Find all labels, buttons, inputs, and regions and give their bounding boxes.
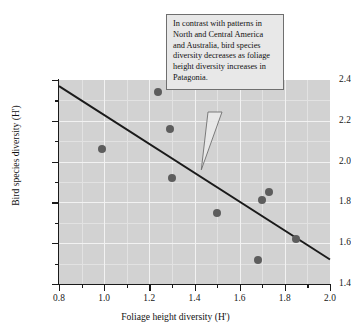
callout-leader-line	[201, 112, 222, 170]
annotation-callout: In contrast with patterns in North and C…	[166, 14, 284, 90]
x-axis-title: Foliage height diversity (H')	[0, 311, 351, 322]
y-axis-title: Bird species diversity (H')	[10, 56, 21, 256]
scatter-plot-figure: 1.41.61.82.02.22.40.81.01.21.41.61.82.0 …	[0, 0, 351, 334]
annotation-text: In contrast with patterns in North and C…	[173, 19, 270, 82]
